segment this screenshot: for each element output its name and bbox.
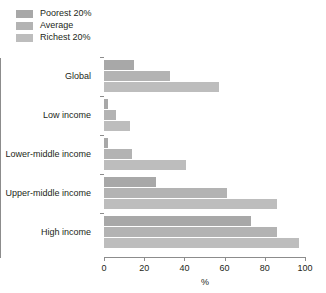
y-axis-tick — [100, 57, 104, 58]
x-axis-tick-label: 60 — [210, 263, 240, 273]
x-axis-tick-label: 20 — [129, 263, 159, 273]
bar — [104, 227, 277, 237]
x-axis-tick-label: 40 — [169, 263, 199, 273]
bar-group — [104, 99, 306, 132]
y-axis-tick — [100, 213, 104, 214]
y-axis-label: Global — [0, 71, 99, 81]
y-axis-label: Lower-middle income — [0, 149, 99, 159]
chart-figure: Poorest 20%AverageRichest 20% GlobalLow … — [0, 0, 326, 293]
x-axis-tick — [225, 257, 226, 261]
y-axis-line — [0, 58, 1, 258]
bar — [104, 138, 108, 148]
x-axis-tick — [144, 257, 145, 261]
x-axis-title: % — [104, 277, 306, 287]
y-axis-label: Low income — [0, 110, 99, 120]
x-axis-line — [104, 257, 306, 258]
plot-area — [104, 58, 306, 257]
bar — [104, 121, 130, 131]
bar-group — [104, 138, 306, 171]
bar-group — [104, 216, 306, 249]
bar — [104, 149, 132, 159]
bar — [104, 188, 227, 198]
y-axis-label: High income — [0, 227, 99, 237]
x-axis-tick — [305, 257, 306, 261]
bar — [104, 199, 277, 209]
bar — [104, 99, 108, 109]
bar — [104, 110, 116, 120]
x-axis-tick-label: 100 — [290, 263, 320, 273]
x-axis-tick — [265, 257, 266, 261]
y-axis-tick — [100, 174, 104, 175]
y-axis-category-labels: GlobalLow incomeLower-middle incomeUpper… — [0, 0, 99, 293]
bar-group — [104, 177, 306, 210]
bar — [104, 60, 134, 70]
bar — [104, 238, 299, 248]
bar — [104, 177, 156, 187]
bar — [104, 82, 219, 92]
bar — [104, 216, 251, 226]
x-axis-tick — [184, 257, 185, 261]
y-axis-tick — [100, 135, 104, 136]
bar-group — [104, 60, 306, 93]
y-axis-tick — [100, 96, 104, 97]
x-axis-tick — [104, 257, 105, 261]
y-axis-label: Upper-middle income — [0, 188, 99, 198]
x-axis-tick-label: 80 — [250, 263, 280, 273]
bar — [104, 71, 170, 81]
x-axis-tick-label: 0 — [89, 263, 119, 273]
bar — [104, 160, 186, 170]
